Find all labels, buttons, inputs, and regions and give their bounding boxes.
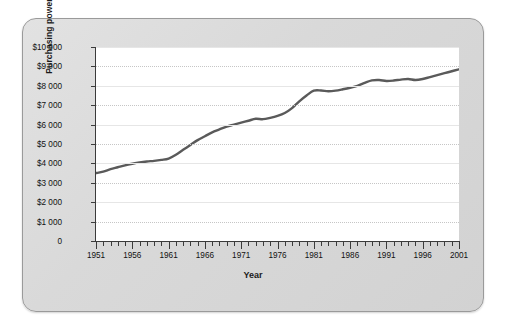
y-tick (91, 105, 96, 106)
y-tick (91, 86, 96, 87)
x-tick-minor (176, 242, 177, 246)
x-tick-minor (401, 242, 402, 246)
gridline (96, 86, 459, 87)
x-tick-label: 1991 (377, 251, 395, 260)
x-tick-minor (415, 242, 416, 246)
x-tick-minor (103, 242, 104, 246)
x-tick-labels: 1951195619611966197119761981198619911996… (96, 242, 459, 266)
plot-area (96, 47, 459, 241)
gridline (96, 125, 459, 126)
y-tick-label: $4 000 (37, 159, 62, 168)
x-tick-major (350, 242, 351, 249)
x-tick-minor (125, 242, 126, 246)
y-tick (91, 163, 96, 164)
x-tick-major (459, 242, 460, 249)
x-tick-minor (379, 242, 380, 246)
x-tick-major (132, 242, 133, 249)
x-tick-minor (111, 242, 112, 246)
x-tick-minor (437, 242, 438, 246)
x-tick-label: 1951 (87, 251, 105, 260)
y-tick-label: $5 000 (37, 140, 62, 149)
x-tick-minor (408, 242, 409, 246)
y-tick (91, 183, 96, 184)
x-tick-label: 2001 (450, 251, 468, 260)
x-tick-minor (328, 242, 329, 246)
x-tick-minor (444, 242, 445, 246)
x-tick-minor (263, 242, 264, 246)
x-tick-label: 1971 (232, 251, 250, 260)
x-tick-minor (212, 242, 213, 246)
x-tick-minor (183, 242, 184, 246)
x-tick-minor (154, 242, 155, 246)
gridline (96, 163, 459, 164)
y-tick-label: $6 000 (37, 120, 62, 129)
y-tick-label: $9 000 (37, 62, 62, 71)
x-tick-minor (336, 242, 337, 246)
x-tick-minor (321, 242, 322, 246)
x-tick-major (278, 242, 279, 249)
x-tick-minor (307, 242, 308, 246)
x-tick-major (241, 242, 242, 249)
x-tick-label: 1961 (159, 251, 177, 260)
gridline (96, 222, 459, 223)
x-tick-minor (430, 242, 431, 246)
chart-figure: Purchasing power 0$1 000$2 000$3 000$4 0… (22, 18, 484, 312)
y-tick-label: $1 000 (37, 217, 62, 226)
x-tick-minor (198, 242, 199, 246)
y-tick (91, 144, 96, 145)
x-tick-label: 1981 (305, 251, 323, 260)
x-tick-label: 1976 (268, 251, 286, 260)
x-tick-minor (357, 242, 358, 246)
x-tick-minor (140, 242, 141, 246)
x-tick-minor (118, 242, 119, 246)
x-tick-major (314, 242, 315, 249)
x-tick-major (423, 242, 424, 249)
x-tick-label: 1956 (123, 251, 141, 260)
x-tick-minor (343, 242, 344, 246)
gridline (96, 105, 459, 106)
y-tick (91, 66, 96, 67)
x-tick-minor (248, 242, 249, 246)
y-tick-label: $2 000 (37, 198, 62, 207)
x-tick-minor (270, 242, 271, 246)
x-tick-major (205, 242, 206, 249)
x-tick-minor (234, 242, 235, 246)
x-tick-major (169, 242, 170, 249)
y-tick-label: 0 (57, 237, 62, 246)
x-tick-minor (285, 242, 286, 246)
y-tick-label: $7 000 (37, 101, 62, 110)
x-axis-title: Year (22, 270, 484, 280)
x-tick-minor (227, 242, 228, 246)
gridline (96, 183, 459, 184)
x-tick-minor (147, 242, 148, 246)
y-tick (91, 202, 96, 203)
y-tick-label: $8 000 (37, 81, 62, 90)
x-tick-minor (256, 242, 257, 246)
x-tick-minor (219, 242, 220, 246)
x-tick-minor (299, 242, 300, 246)
chart-screenshot: Purchasing power 0$1 000$2 000$3 000$4 0… (0, 0, 511, 332)
y-tick (91, 47, 96, 48)
x-tick-major (96, 242, 97, 249)
y-tick-label: $10 000 (32, 43, 62, 52)
gridline (96, 144, 459, 145)
y-tick-label: $3 000 (37, 178, 62, 187)
x-tick-minor (161, 242, 162, 246)
y-tick (91, 125, 96, 126)
x-tick-label: 1996 (414, 251, 432, 260)
x-tick-minor (190, 242, 191, 246)
gridline (96, 47, 459, 48)
gridline (96, 202, 459, 203)
x-tick-label: 1966 (196, 251, 214, 260)
x-tick-minor (292, 242, 293, 246)
x-tick-minor (372, 242, 373, 246)
x-tick-minor (365, 242, 366, 246)
x-tick-minor (452, 242, 453, 246)
x-tick-label: 1986 (341, 251, 359, 260)
gridline (96, 66, 459, 67)
x-tick-minor (394, 242, 395, 246)
x-tick-major (386, 242, 387, 249)
y-tick (91, 222, 96, 223)
